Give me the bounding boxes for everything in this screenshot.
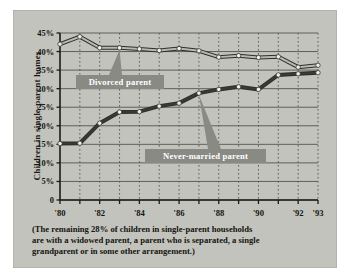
data-point	[177, 46, 181, 50]
caption-line-3: grandparent or in some other arrangement…	[32, 246, 324, 257]
y-tick-label: 15%	[37, 140, 54, 149]
data-point	[117, 110, 121, 114]
callout-pointer	[199, 95, 221, 149]
data-point	[316, 63, 320, 67]
x-tick-label: '80	[55, 208, 66, 218]
data-point	[117, 46, 121, 50]
data-point	[236, 85, 240, 89]
data-point	[217, 55, 221, 59]
data-point	[137, 47, 141, 51]
data-point	[256, 87, 260, 91]
data-point	[78, 141, 82, 145]
chart-figure: Children in single-parent homes 05%10%15…	[14, 11, 336, 267]
data-point	[316, 71, 320, 75]
data-point	[276, 73, 280, 77]
data-point	[58, 42, 62, 46]
data-point	[197, 49, 201, 53]
data-point	[236, 53, 240, 57]
data-point	[217, 87, 221, 91]
y-tick-label: 35%	[37, 66, 54, 75]
callout-label: Divorced parent	[89, 77, 152, 87]
y-tick-label: 0	[50, 196, 54, 205]
data-point	[256, 55, 260, 59]
chart-caption: (The remaining 28% of children in single…	[32, 224, 324, 256]
data-point	[97, 121, 101, 125]
x-tick-labels-group: '80'82'84'86'88'90'92'93	[55, 208, 324, 218]
y-tick-label: 10%	[37, 159, 54, 168]
data-point	[157, 48, 161, 52]
data-point	[276, 55, 280, 59]
caption-line-1: (The remaining 28% of children in single…	[32, 224, 324, 235]
y-tick-labels-group: 05%10%15%20%25%30%35%40%45%	[37, 29, 54, 205]
x-tick-label: '88	[213, 208, 225, 218]
data-point	[197, 91, 201, 95]
x-tick-label: '90	[253, 208, 264, 218]
data-point	[296, 65, 300, 69]
x-tick-label: '93	[313, 208, 324, 218]
x-tick-label: '86	[174, 208, 186, 218]
data-point	[137, 109, 141, 113]
y-tick-label: 20%	[37, 122, 54, 131]
y-tick-label: 25%	[37, 103, 54, 112]
y-tick-label: 5%	[41, 177, 54, 186]
data-point	[58, 141, 62, 145]
data-point	[78, 35, 82, 39]
data-point	[97, 46, 101, 50]
series-callouts-group: Divorced parentNever-married parent	[76, 50, 266, 163]
y-tick-label: 45%	[37, 29, 54, 38]
callout-label: Never-married parent	[163, 151, 248, 161]
x-tick-label: '84	[134, 208, 146, 218]
y-tick-label: 30%	[37, 85, 54, 94]
caption-line-2: are with a widowed parent, a parent who …	[32, 235, 324, 246]
y-tick-label: 40%	[37, 48, 54, 57]
x-tick-label: '92	[293, 208, 304, 218]
data-point	[157, 104, 161, 108]
x-tick-label: '82	[94, 208, 105, 218]
callout-pointer	[109, 50, 122, 75]
data-point	[177, 101, 181, 105]
data-point	[296, 72, 300, 76]
